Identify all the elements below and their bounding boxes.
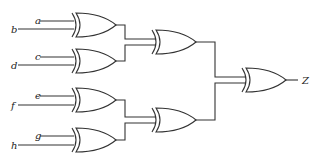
xor-gate-gh [72,128,116,152]
xor-gate-upper-middle [152,30,196,54]
xor-gate-final [242,68,286,92]
stage2-wires [116,25,155,140]
input-label-f: f [10,100,17,111]
circuit-svg: a b c d e f g h Z [0,0,322,161]
input-label-h: h [11,140,17,151]
input-label-d: d [11,60,17,71]
xor-gate-cd [72,49,116,73]
input-label-b: b [11,24,17,35]
logic-circuit-diagram: a b c d e f g h Z [0,0,322,161]
input-wires [18,21,74,145]
input-label-c: c [35,51,41,62]
input-label-g: g [35,130,41,141]
input-label-a: a [35,15,41,26]
stage3-wires [196,42,245,120]
xor-gate-ef [72,88,116,112]
xor-gate-lower-middle [152,108,196,132]
output-label-z: Z [301,75,310,86]
input-label-e: e [35,90,41,101]
xor-gate-ab [72,13,116,37]
